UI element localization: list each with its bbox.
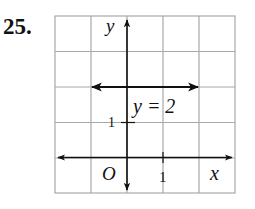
line-label: y = 2 — [131, 95, 175, 118]
problem-number: 25. — [3, 14, 32, 39]
y-axis-label: y — [104, 15, 115, 36]
y-tick-label: 1 — [108, 115, 115, 130]
x-tick-label: 1 — [159, 169, 167, 185]
x-axis-label: x — [209, 162, 219, 184]
origin-label: O — [102, 163, 116, 184]
coordinate-graph: 25. y x O 1 1 y = 2 — [0, 0, 255, 209]
